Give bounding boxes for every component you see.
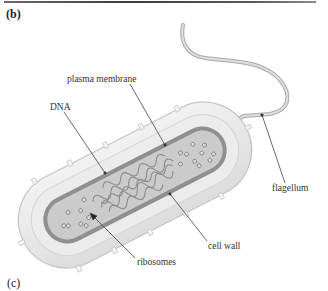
bacterium-diagram [0, 0, 328, 291]
label-plasma-membrane: plasma membrane [67, 74, 136, 84]
label-ribosomes: ribosomes [137, 257, 176, 267]
label-cell-wall: cell wall [208, 241, 240, 251]
label-dna: DNA [50, 102, 71, 112]
panel-label-c: (c) [7, 276, 20, 291]
leader-flagellum [262, 115, 285, 183]
label-flagellum: flagellum [272, 183, 308, 193]
